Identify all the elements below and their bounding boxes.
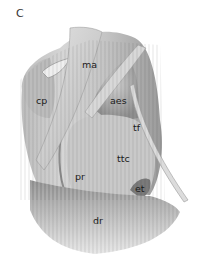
anatomical-illustration — [0, 0, 203, 268]
label-et: et — [135, 184, 145, 194]
label-tf: tf — [133, 123, 140, 133]
label-ttc: ttc — [117, 154, 130, 164]
label-ma: ma — [82, 60, 97, 70]
label-cp: cp — [36, 96, 47, 106]
label-aes: aes — [110, 96, 127, 106]
label-pr: pr — [75, 172, 85, 182]
label-dr: dr — [93, 216, 103, 226]
